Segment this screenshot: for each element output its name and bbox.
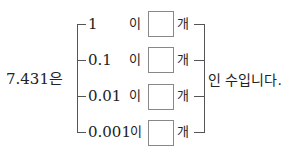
answer-box[interactable]	[148, 11, 174, 37]
answer-box[interactable]	[148, 84, 174, 110]
right-bracket-tick-3	[194, 96, 204, 97]
answer-box[interactable]	[148, 120, 174, 146]
answer-box[interactable]	[148, 47, 174, 73]
row-unit: 0.01	[88, 87, 121, 105]
subject-number: 7.431은	[6, 70, 63, 88]
left-bracket-tick-2	[77, 60, 86, 61]
row-unit: 1	[88, 15, 98, 33]
row-counter: 개	[177, 51, 189, 69]
row-particle: 이	[129, 87, 141, 105]
right-bracket-tick-4	[194, 132, 204, 133]
row-counter: 개	[177, 123, 189, 141]
row-counter: 개	[177, 87, 189, 105]
right-bracket-tick-2	[194, 60, 204, 61]
right-bracket-tick-1	[194, 24, 204, 25]
row-unit: 0.001	[88, 123, 131, 141]
left-bracket-tick-3	[77, 96, 86, 97]
left-bracket-tick-1	[77, 24, 86, 25]
row-particle: 이	[129, 51, 141, 69]
row-counter: 개	[177, 15, 189, 33]
conclusion-text: 인 수입니다.	[208, 71, 282, 89]
left-bracket-tick-4	[77, 132, 86, 133]
row-particle: 이	[130, 123, 142, 141]
row-particle: 이	[129, 15, 141, 33]
left-bracket-vertical	[77, 24, 78, 133]
right-bracket-vertical	[204, 24, 205, 133]
row-unit: 0.1	[88, 51, 112, 69]
